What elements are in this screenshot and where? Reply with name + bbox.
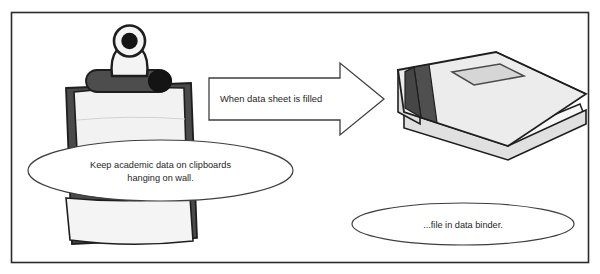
binder-callout-line-1: ...file in data binder. — [423, 220, 503, 230]
clipboard-clip-bar-end — [149, 70, 172, 92]
arrow-label: When data sheet is filled — [220, 93, 322, 104]
diagram-canvas: When data sheet is filled — [0, 0, 600, 274]
clipboard-paper-bottom — [66, 197, 193, 244]
clipboard-callout-line-1: Keep academic data on clipboards — [90, 160, 231, 170]
clipboard-callout-line-2: hanging on wall. — [127, 173, 193, 183]
clipboard-callout-ellipse — [28, 140, 293, 201]
clipboard-clip-hole — [121, 33, 137, 49]
clipboard-callout: Keep academic data on clipboards hanging… — [28, 140, 293, 201]
binder-callout: ...file in data binder. — [352, 203, 574, 245]
workflow-diagram: When data sheet is filled — [0, 0, 600, 274]
